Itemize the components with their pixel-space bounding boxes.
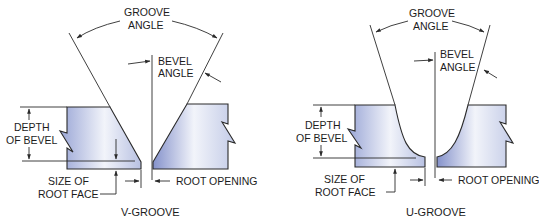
groove-angle-label-line2: ANGLE [128, 19, 164, 31]
size-of-root-face-label-line1: SIZE OF [48, 175, 89, 187]
u-size-of-root-face-label-line1: SIZE OF [324, 173, 365, 185]
groove-diagram: GROOVE ANGLE BEVEL ANGLE DEPTH OF BEVEL … [0, 0, 539, 223]
u-bevel-angle-arrow-right [484, 70, 497, 78]
u-bevel-angle-label-line1: BEVEL [440, 48, 474, 60]
groove-angle-left-line [69, 33, 110, 107]
u-bevel-angle-arrow-left [414, 60, 433, 61]
u-groove-figure: GROOVE ANGLE BEVEL ANGLE DEPTH OF BEVEL … [296, 7, 539, 218]
v-groove-caption: V-GROOVE [121, 206, 180, 218]
bevel-angle-arrow-right [205, 73, 221, 82]
groove-angle-arc-right [172, 21, 217, 38]
v-groove-left-plate [60, 107, 141, 169]
u-root-face-leader [386, 169, 395, 192]
u-bevel-angle-label-line2: ANGLE [440, 61, 476, 73]
bevel-angle-label-line1: BEVEL [158, 55, 192, 67]
root-face-leader [100, 171, 116, 194]
root-opening-label: ROOT OPENING [176, 175, 257, 187]
depth-of-bevel-label-line2: OF BEVEL [6, 134, 58, 146]
bevel-angle-arrow-left [128, 61, 150, 64]
v-groove-right-plate [153, 104, 235, 169]
bevel-angle-label-line2: ANGLE [158, 67, 194, 79]
u-groove-angle-label-line1: GROOVE [409, 7, 455, 19]
u-depth-of-bevel-label-line2: OF BEVEL [296, 132, 348, 144]
size-of-root-face-label-line2: ROOT FACE [38, 188, 98, 200]
u-size-of-root-face-label-line2: ROOT FACE [315, 186, 375, 198]
u-groove-caption: U-GROOVE [406, 206, 466, 218]
u-groove-angle-label-line2: ANGLE [413, 20, 449, 32]
depth-of-bevel-label-line1: DEPTH [14, 121, 50, 133]
u-groove-angle-arc-left [376, 21, 408, 32]
u-groove-right-plate [437, 105, 513, 167]
v-groove-figure: GROOVE ANGLE BEVEL ANGLE DEPTH OF BEVEL … [6, 6, 257, 218]
u-root-opening-label: ROOT OPENING [458, 174, 539, 186]
groove-angle-arc-left [77, 21, 120, 38]
groove-angle-label-line1: GROOVE [124, 6, 170, 18]
u-depth-of-bevel-label-line1: DEPTH [305, 119, 341, 131]
u-groove-angle-arc-right [452, 21, 484, 32]
u-groove-angle-left-line [370, 25, 395, 105]
